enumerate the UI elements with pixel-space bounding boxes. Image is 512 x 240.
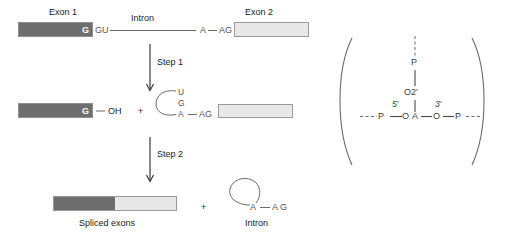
branch-oxygen-o2prime-label: O2′: [404, 88, 418, 97]
three-prime-label: 3′: [435, 100, 441, 109]
branch-phosphate-label: P: [411, 58, 417, 67]
left-phosphate-label: P: [378, 112, 384, 121]
left-oxygen-label: O: [402, 112, 409, 121]
five-prime-label: 5′: [392, 100, 398, 109]
adenosine-label: A: [412, 112, 418, 121]
right-phosphate-label: P: [455, 112, 461, 121]
splicing-diagram: Exon 1 G GU Intron A AG Exon 2 Step 1 G …: [0, 0, 512, 240]
right-oxygen-label: O: [433, 112, 440, 121]
